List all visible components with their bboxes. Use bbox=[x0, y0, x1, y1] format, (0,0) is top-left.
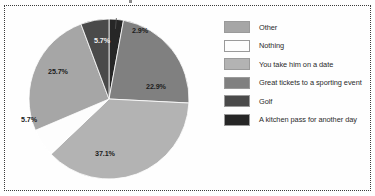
slice-label-kitchen-pass: 2.9% bbox=[132, 26, 148, 35]
legend-swatch bbox=[224, 114, 250, 126]
legend-swatch bbox=[224, 95, 250, 107]
legend-item-label: You take him on a date bbox=[259, 60, 333, 69]
slice-label-sporting-event: 22.9% bbox=[146, 82, 166, 91]
legend-item-label: Great tickets to a sporting event bbox=[259, 78, 362, 87]
pie-plot-area: 2.9% 22.9% 37.1% 5.7% 25.7% 5.7% bbox=[10, 10, 215, 186]
slice-label-other: 25.7% bbox=[48, 67, 68, 76]
legend-item-label: Other bbox=[259, 23, 277, 32]
cropped-title-fragment bbox=[129, 0, 132, 3]
legend-item[interactable]: Other bbox=[224, 18, 364, 37]
legend-item[interactable]: You take him on a date bbox=[224, 55, 364, 74]
legend-swatch bbox=[224, 58, 250, 70]
legend-item[interactable]: A kitchen pass for another day bbox=[224, 111, 364, 130]
legend-item[interactable]: Great tickets to a sporting event bbox=[224, 74, 364, 93]
slice-label-date: 37.1% bbox=[95, 149, 115, 158]
legend-swatch bbox=[224, 40, 250, 52]
legend-item[interactable]: Nothing bbox=[224, 37, 364, 56]
slice-label-golf: 5.7% bbox=[94, 36, 110, 45]
chart-page: 2.9% 22.9% 37.1% 5.7% 25.7% 5.7% OtherNo… bbox=[0, 0, 375, 196]
slice-label-nothing: 5.7% bbox=[21, 115, 37, 124]
legend-item[interactable]: Golf bbox=[224, 92, 364, 111]
legend-item-label: Nothing bbox=[259, 41, 284, 50]
legend-swatch bbox=[224, 21, 250, 33]
legend-swatch bbox=[224, 77, 250, 89]
legend-item-label: A kitchen pass for another day bbox=[259, 115, 357, 124]
legend-item-label: Golf bbox=[259, 97, 272, 106]
chart-legend: OtherNothingYou take him on a dateGreat … bbox=[224, 18, 364, 129]
